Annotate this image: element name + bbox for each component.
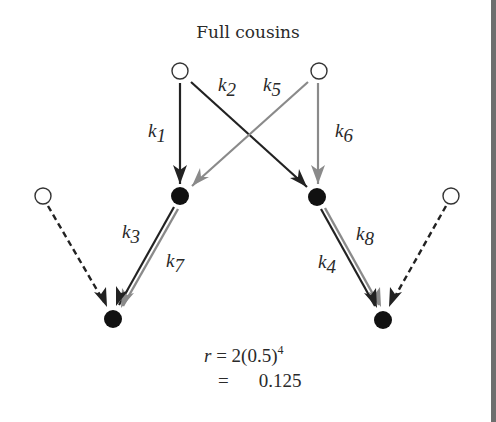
node-cousin-left xyxy=(104,310,122,328)
node-outside-right xyxy=(443,188,459,204)
edge-dashed-right xyxy=(389,206,446,307)
node-parent-right xyxy=(308,188,326,206)
label-k3: k3 xyxy=(122,221,140,247)
label-k6: k6 xyxy=(335,120,353,146)
label-k1: k1 xyxy=(148,120,166,146)
relatedness-formula-line1: r = 2(0.5)4 xyxy=(204,343,284,367)
node-grandparent-right xyxy=(311,63,327,79)
label-k8: k8 xyxy=(356,223,374,249)
edge-k6 xyxy=(311,83,325,184)
page-edge-border xyxy=(491,0,496,422)
node-parent-left xyxy=(171,187,189,205)
label-k4: k4 xyxy=(318,251,336,277)
edge-dashed-left xyxy=(48,206,107,307)
label-k5: k5 xyxy=(263,74,281,100)
pedigree-diagram: Full cousins xyxy=(0,0,496,422)
edge-k1 xyxy=(173,83,187,184)
label-k2: k2 xyxy=(218,74,236,100)
node-cousin-right xyxy=(374,311,392,329)
relatedness-formula-line2: =0.125 xyxy=(218,370,301,392)
node-grandparent-left xyxy=(172,63,188,79)
label-k7: k7 xyxy=(166,250,185,276)
node-outside-left xyxy=(35,188,51,204)
